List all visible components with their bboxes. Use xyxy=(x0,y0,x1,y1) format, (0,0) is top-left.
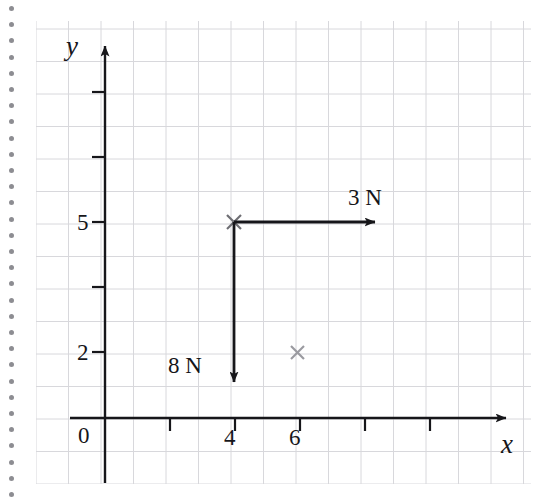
origin-label: 0 xyxy=(78,424,90,447)
binding-hole xyxy=(9,265,14,270)
binding-hole xyxy=(9,184,14,189)
binding-hole xyxy=(9,443,14,448)
binding-hole xyxy=(9,427,14,432)
binding-hole xyxy=(9,346,14,351)
binding-hole xyxy=(9,314,14,319)
binding-hole xyxy=(9,249,14,254)
y-tick-label-2: 2 xyxy=(77,341,89,364)
binding-hole xyxy=(9,492,14,497)
x-tick-label-6: 6 xyxy=(289,426,301,449)
x-axis-label: x xyxy=(501,431,513,458)
force-right-label: 3 N xyxy=(348,186,382,209)
y-axis-label: y xyxy=(66,33,78,60)
binding-hole xyxy=(9,136,14,141)
y-axis-ticks xyxy=(92,92,105,352)
binding-hole xyxy=(9,298,14,303)
binding-hole xyxy=(9,460,14,465)
binding-hole xyxy=(9,6,14,11)
force-down-label: 8 N xyxy=(168,354,202,377)
binding-hole xyxy=(9,168,14,173)
binding-hole xyxy=(9,395,14,400)
binding-hole xyxy=(9,22,14,27)
binding-hole xyxy=(9,71,14,76)
binding-hole xyxy=(9,411,14,416)
binding-hole xyxy=(9,217,14,222)
binding-hole xyxy=(9,87,14,92)
binding-hole xyxy=(9,200,14,205)
axes-and-vectors xyxy=(36,21,531,484)
binding-hole xyxy=(9,119,14,124)
notebook-binding xyxy=(0,0,26,503)
point-6-2-marker xyxy=(291,346,304,359)
binding-hole xyxy=(9,281,14,286)
binding-hole xyxy=(9,103,14,108)
binding-hole xyxy=(9,38,14,43)
graph-paper xyxy=(36,21,531,484)
binding-hole xyxy=(9,55,14,60)
binding-hole xyxy=(9,330,14,335)
x-tick-label-4: 4 xyxy=(224,426,236,449)
y-tick-label-5: 5 xyxy=(77,211,89,234)
binding-hole xyxy=(9,233,14,238)
binding-hole xyxy=(9,379,14,384)
binding-hole xyxy=(9,152,14,157)
binding-hole xyxy=(9,362,14,367)
binding-hole xyxy=(9,476,14,481)
